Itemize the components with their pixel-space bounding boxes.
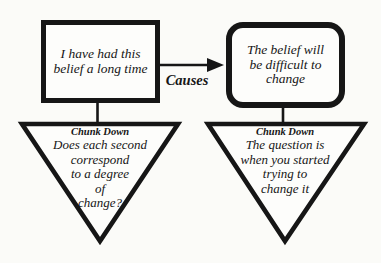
box-text-line: be difficult to	[232, 58, 339, 73]
triangle-text-line: correspond	[28, 153, 172, 168]
belief-difficulty-box: The belief will be difficult to change	[226, 22, 345, 108]
triangle-text-line: change it	[213, 182, 357, 197]
diagram-canvas: I have had this belief a long time The b…	[0, 0, 381, 263]
causes-arrow-label: Causes	[156, 72, 218, 88]
belief-duration-box: I have had this belief a long time	[41, 20, 160, 103]
box-text-line: belief a long time	[46, 62, 155, 77]
causes-arrowhead-icon	[207, 58, 224, 72]
chunk-down-left-text: Chunk Down Does each second correspond t…	[28, 126, 172, 211]
triangle-text-line: when you started	[213, 153, 357, 168]
triangle-text-line: The question is	[213, 138, 357, 153]
box-text-line: change	[232, 72, 339, 87]
triangle-text-line: change?	[28, 196, 172, 211]
triangle-text-line: of	[28, 182, 172, 197]
triangle-text-line: trying to	[213, 167, 357, 182]
box-text-line: I have had this	[46, 47, 155, 62]
triangle-text-line: to a degree	[28, 167, 172, 182]
chunk-down-right-text: Chunk Down The question is when you star…	[213, 126, 357, 196]
triangle-text-line: Does each second	[28, 138, 172, 153]
box-text-line: The belief will	[232, 43, 339, 58]
